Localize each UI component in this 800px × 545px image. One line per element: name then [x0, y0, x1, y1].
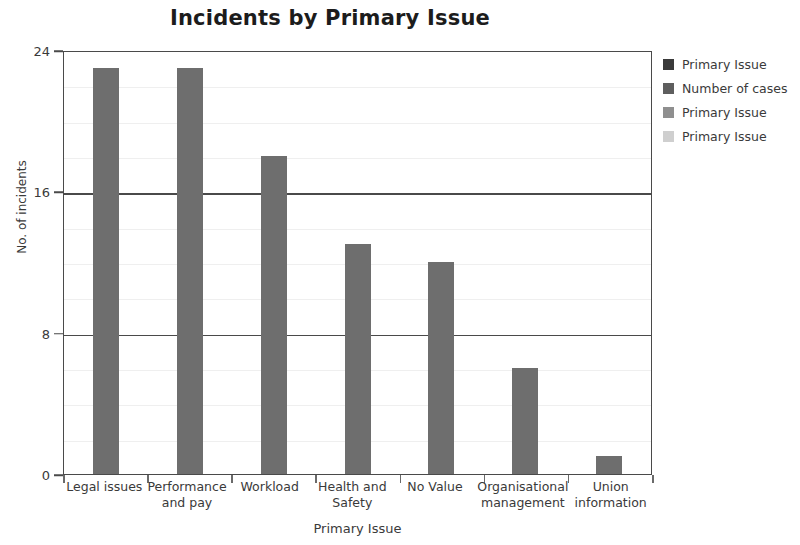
x-tick-label: Health and Safety — [311, 479, 394, 525]
legend-item[interactable]: Primary Issue — [663, 52, 798, 76]
bar-slot — [148, 52, 232, 474]
x-tick-mark — [652, 475, 654, 483]
legend-item[interactable]: Number of cases — [663, 76, 798, 100]
y-tick-label: 16 — [33, 185, 50, 200]
bar-slot — [399, 52, 483, 474]
bar[interactable] — [345, 244, 371, 474]
legend-label: Primary Issue — [682, 57, 767, 72]
legend-label: Primary Issue — [682, 105, 767, 120]
y-tick-label: 0 — [42, 468, 50, 483]
x-tick-label: Performance and pay — [146, 479, 229, 525]
y-tick-label: 8 — [42, 326, 50, 341]
bar[interactable] — [596, 456, 622, 474]
y-tick-mark — [54, 50, 63, 52]
legend-label: Number of cases — [682, 81, 787, 96]
plot-area — [63, 51, 652, 475]
x-tick-label: Organisational management — [476, 479, 569, 525]
y-tick-mark — [54, 474, 63, 476]
bar[interactable] — [428, 262, 454, 474]
x-axis-labels: Legal issuesPerformance and payWorkloadH… — [63, 479, 652, 525]
legend: Primary IssueNumber of casesPrimary Issu… — [663, 52, 798, 148]
bar[interactable] — [93, 68, 119, 474]
x-tick-label: No Value — [394, 479, 477, 525]
legend-item[interactable]: Primary Issue — [663, 100, 798, 124]
bar-slot — [483, 52, 567, 474]
legend-label: Primary Issue — [682, 129, 767, 144]
bar-slot — [64, 52, 148, 474]
bar[interactable] — [261, 156, 287, 474]
x-tick-label: Union information — [569, 479, 652, 525]
bars-layer — [64, 52, 651, 474]
x-axis-title: Primary Issue — [63, 521, 652, 536]
bar[interactable] — [177, 68, 203, 474]
y-tick-label: 24 — [33, 44, 50, 59]
chart-figure: Incidents by Primary Issue No. of incide… — [0, 0, 800, 545]
bar-slot — [567, 52, 651, 474]
legend-swatch-icon — [663, 83, 674, 94]
bar[interactable] — [512, 368, 538, 474]
bar-slot — [232, 52, 316, 474]
y-tick-mark — [54, 192, 63, 194]
legend-swatch-icon — [663, 59, 674, 70]
x-tick-label: Workload — [228, 479, 311, 525]
legend-swatch-icon — [663, 131, 674, 142]
y-axis: 081624 — [0, 51, 63, 475]
legend-item[interactable]: Primary Issue — [663, 124, 798, 148]
y-tick-mark — [54, 333, 63, 335]
legend-swatch-icon — [663, 107, 674, 118]
bar-slot — [316, 52, 400, 474]
chart-title: Incidents by Primary Issue — [0, 6, 660, 30]
x-tick-label: Legal issues — [63, 479, 146, 525]
